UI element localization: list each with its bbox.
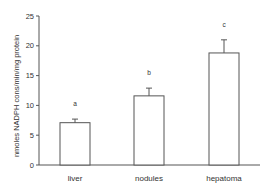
bar-nodules bbox=[134, 96, 164, 165]
y-tick-label: 0 bbox=[30, 161, 34, 170]
y-tick-label: 5 bbox=[30, 131, 34, 140]
x-tick-label: hepatoma bbox=[206, 174, 242, 183]
bar-liver bbox=[60, 123, 90, 165]
y-tick-label: 25 bbox=[26, 12, 34, 21]
y-tick-label: 15 bbox=[26, 71, 34, 80]
significance-letter: b bbox=[147, 69, 151, 76]
y-axis: 0510152025 bbox=[26, 12, 39, 170]
significance-letter: a bbox=[73, 100, 77, 107]
y-axis-label: nmoles NADPH cons/min/mg protein bbox=[12, 35, 21, 157]
y-tick-label: 10 bbox=[26, 101, 34, 110]
bar-chart: 0510152025 livernoduleshepatoma abc nmol… bbox=[0, 0, 272, 190]
bar-hepatoma bbox=[209, 53, 239, 165]
significance-letter: c bbox=[222, 21, 226, 28]
y-tick-label: 20 bbox=[26, 41, 34, 50]
x-tick-label: liver bbox=[68, 174, 83, 183]
chart-canvas: 0510152025 livernoduleshepatoma abc nmol… bbox=[0, 0, 272, 190]
x-axis: livernoduleshepatoma bbox=[39, 165, 260, 183]
x-tick-label: nodules bbox=[135, 174, 163, 183]
bars: abc bbox=[60, 21, 239, 165]
